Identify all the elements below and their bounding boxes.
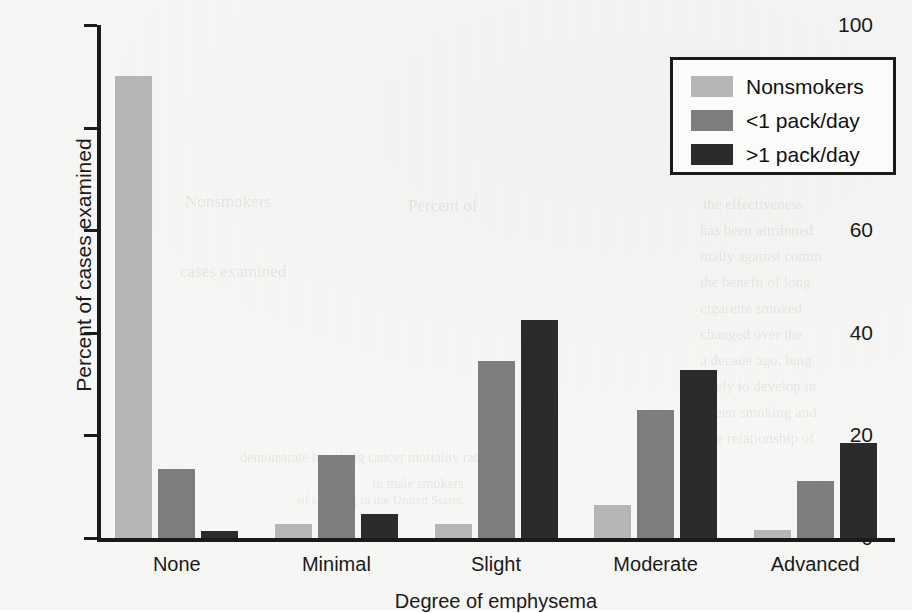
bar-advanced-series-1 — [797, 481, 834, 538]
bar-moderate-series-2 — [680, 370, 717, 538]
legend-label-1: <1 pack/day — [746, 110, 860, 131]
y-axis-tick — [84, 24, 97, 27]
bar-slight-series-0 — [435, 524, 472, 538]
legend-row-1: <1 pack/day — [691, 104, 893, 136]
bar-none-series-2 — [201, 531, 238, 538]
legend-row-0: Nonsmokers — [691, 70, 893, 102]
y-axis-tick-label: 40 — [803, 322, 873, 343]
bar-moderate-series-0 — [594, 505, 631, 538]
bar-none-series-1 — [158, 469, 195, 538]
y-axis-line — [97, 25, 101, 538]
bar-slight-series-1 — [478, 361, 515, 538]
legend-label-0: Nonsmokers — [746, 76, 864, 97]
bar-minimal-series-0 — [275, 524, 312, 538]
y-axis-title: Percent of cases examined — [72, 35, 96, 495]
x-axis-title: Degree of emphysema — [97, 590, 895, 613]
legend-label-2: >1 pack/day — [746, 144, 860, 165]
legend-swatch-2 — [691, 144, 733, 165]
legend-swatch-1 — [691, 110, 733, 131]
x-axis-line — [97, 538, 895, 542]
bar-advanced-series-2 — [840, 443, 877, 538]
y-axis-tick-label: 60 — [803, 219, 873, 240]
chart-legend: Nonsmokers<1 pack/day>1 pack/day — [670, 57, 896, 175]
y-axis-tick — [84, 537, 97, 540]
x-axis-label-minimal: Minimal — [257, 553, 417, 576]
bar-minimal-series-1 — [318, 455, 355, 538]
x-axis-label-advanced: Advanced — [735, 553, 895, 576]
x-axis-label-moderate: Moderate — [576, 553, 736, 576]
bar-none-series-0 — [115, 76, 152, 538]
bar-slight-series-2 — [521, 320, 558, 538]
legend-swatch-0 — [691, 76, 733, 97]
x-axis-label-none: None — [97, 553, 257, 576]
bar-advanced-series-0 — [754, 530, 791, 538]
x-axis-label-slight: Slight — [416, 553, 576, 576]
bar-moderate-series-1 — [637, 410, 674, 538]
legend-row-2: >1 pack/day — [691, 138, 893, 170]
y-axis-tick-label: 100 — [803, 14, 873, 35]
bar-minimal-series-2 — [361, 514, 398, 538]
